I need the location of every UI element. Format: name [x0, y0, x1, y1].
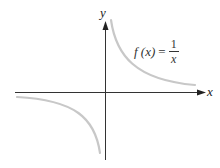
function-lhs: f (x)	[134, 44, 155, 60]
function-label: f (x) = 1 x	[134, 38, 179, 65]
graph-canvas	[0, 0, 220, 168]
y-axis-label: y	[100, 6, 106, 19]
x-axis-label: x	[207, 85, 213, 98]
x-axis-arrow-icon	[197, 90, 206, 96]
fraction-denominator: x	[171, 52, 176, 65]
curve-branch-negative	[17, 97, 100, 153]
y-axis-arrow-icon	[103, 21, 109, 30]
fraction-numerator: 1	[169, 38, 179, 51]
reciprocal-function-graph: y x f (x) = 1 x	[0, 0, 220, 168]
equals-sign: =	[158, 44, 165, 60]
fraction: 1 x	[169, 38, 179, 65]
